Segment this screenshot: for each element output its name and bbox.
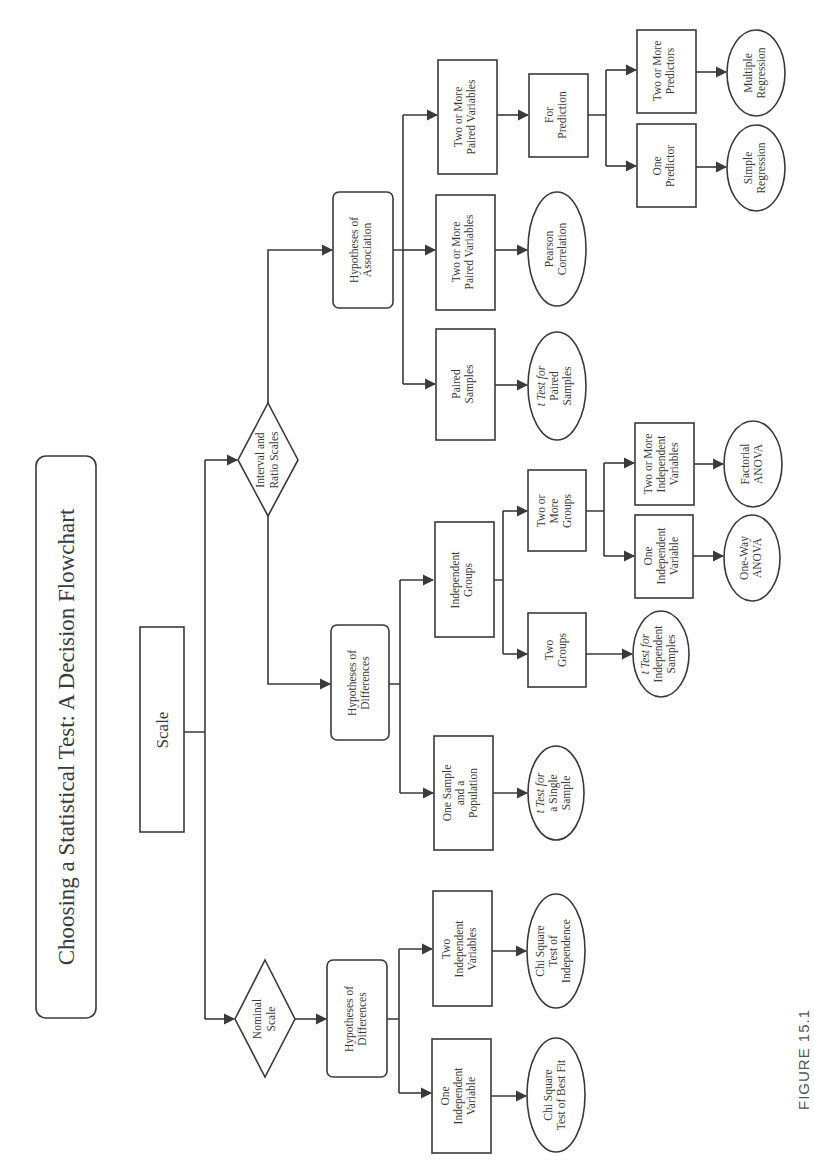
label: Predictors [664,47,676,94]
label: One [651,156,663,175]
label: Chi Square [542,1069,555,1120]
label: Multiple [742,53,755,93]
label: Test of Best Fit [555,1059,567,1130]
label: Groups [561,494,574,528]
label: Two [543,640,555,661]
label: Two or [535,494,547,527]
label: Independent [452,1067,465,1125]
label: One-Way [738,536,751,580]
label: Regression [755,142,768,193]
label: Variables [668,442,680,485]
node-paired-variables-prediction[interactable]: Two or More Paired Variables [438,60,497,174]
label: Chi Square [534,925,547,976]
node-t-test-single-sample[interactable]: t Test for a Single Sample [528,746,584,840]
node-interval-ratio-scales[interactable]: Interval and Ratio Scales [238,403,298,516]
label: Paired [548,371,560,401]
edge-nom-splitter [387,949,399,1093]
label: Hypotheses of [346,650,359,716]
label: Sample [560,776,573,811]
label: t Test for [534,772,547,813]
label: For [543,107,555,123]
label: Variable [668,537,680,575]
node-independent-groups[interactable]: Independent Groups [435,522,494,637]
label: More [548,499,560,524]
label: Two or More [642,434,654,495]
node-two-groups[interactable]: Two Groups [528,613,586,687]
label: Prediction [556,91,568,139]
label: Correlation [556,223,568,276]
label: One [439,1086,451,1105]
node-factorial-anova[interactable]: Factorial ANOVA [724,421,782,507]
label: ANOVA [752,443,764,484]
edge-anova-splitter [586,463,604,556]
label: Regression [755,47,768,98]
node-t-test-independent-samples[interactable]: t Test for Independent Samples [633,611,689,697]
label: Two [440,939,452,960]
label: t Test for [535,365,548,406]
node-chi-square-independence[interactable]: Chi Square Test of Independence [527,894,585,1008]
label: Association [361,223,373,278]
label: t Test for [639,633,652,674]
node-hypotheses-association[interactable]: Hypotheses of Association [333,192,393,308]
label: Independent [449,551,462,609]
node-multiple-regression[interactable]: Multiple Regression [727,30,785,116]
node-nominal-one-independent-variable[interactable]: One Independent Variable [432,1039,491,1153]
label: Paired [450,369,462,399]
node-anova-two-or-more-independent-variables[interactable]: Two or More Independent Variables [635,423,694,505]
node-two-or-more-groups[interactable]: Two or More Groups [528,470,586,551]
label: Predictor [664,145,676,187]
node-paired-variables-correlation[interactable]: Two or More Paired Variables [436,195,495,310]
node-one-way-anova[interactable]: One-Way ANOVA [724,515,780,601]
label: Independent [453,920,466,978]
node-one-predictor[interactable]: One Predictor [637,124,696,207]
flowchart-canvas: Choosing a Statistical Test: A Decision … [0,0,814,1176]
label: Groups [462,563,475,597]
node-anova-one-independent-variable[interactable]: One Independent Variable [635,515,693,598]
node-nominal-two-independent-variables[interactable]: Two Independent Variables [433,891,492,1006]
label: Groups [556,633,569,667]
label: Hypotheses of [348,217,361,283]
label: Factorial [739,444,751,485]
label: Population [467,768,480,818]
node-paired-samples[interactable]: Paired Samples [436,329,495,440]
node-t-test-paired-samples[interactable]: t Test for Paired Samples [528,332,586,440]
label: and a [454,781,466,806]
edge-scale-trunk [184,460,205,1019]
node-scale[interactable]: Scale [140,627,184,832]
node-nominal-scale[interactable]: Nominal Scale [235,960,295,1077]
label: Independence [560,919,573,983]
node-nominal-label-2: Scale [265,1007,277,1032]
label: Paired Variables [463,214,475,289]
label: Two or More [651,41,663,102]
label: Differences [356,992,368,1046]
edge-groups-splitter [494,511,503,654]
label: Test of [547,935,559,967]
node-pearson-correlation[interactable]: Pearson Correlation [528,192,586,306]
label: Samples [463,364,476,403]
node-two-or-more-predictors[interactable]: Two or More Predictors [637,30,696,113]
edge-interval-hypdiff [268,515,330,684]
label: Variables [466,927,478,970]
figure-label: FIGURE 15.1 [795,1009,812,1110]
label: Independent [655,435,668,493]
label: Paired Variables [465,79,477,154]
node-nominal-hypotheses-differences[interactable]: Hypotheses of Differences [327,960,387,1077]
edge-pred-splitter [588,70,606,166]
label: Independent [655,527,668,585]
label: Independent [652,625,665,683]
label: Simple [742,152,755,185]
node-interval-label-1: Interval and [254,432,266,487]
label: Variable [465,1077,477,1115]
node-interval-hypotheses-differences[interactable]: Hypotheses of Differences [331,625,389,740]
node-chi-square-best-fit[interactable]: Chi Square Test of Best Fit [527,1038,585,1152]
label: Samples [561,366,574,405]
node-simple-regression[interactable]: Simple Regression [727,125,785,211]
node-interval-label-2: Ratio Scales [268,431,280,489]
node-one-sample-population[interactable]: One Sample and a Population [434,736,493,850]
label: a Single [547,774,560,811]
node-for-prediction[interactable]: For Prediction [529,74,588,157]
edge-interval-hypassoc [268,250,332,403]
edge-diff-splitter [389,580,400,793]
edge-assoc-splitter [393,115,403,384]
label: Two or More [452,87,464,148]
